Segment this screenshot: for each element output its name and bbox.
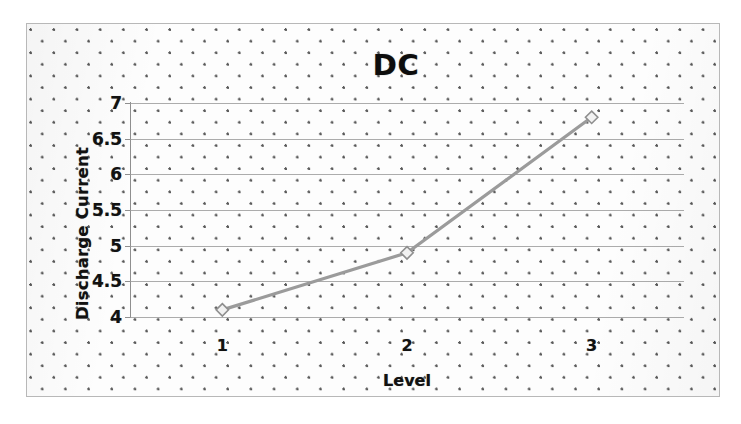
data-point-markers — [216, 111, 598, 316]
x-tick-label: 3 — [586, 336, 597, 355]
y-tick-label: 5 — [110, 235, 122, 255]
figure-canvas: DC Discharge Current Level 76.565.554.54… — [0, 0, 741, 424]
gridline — [130, 317, 684, 318]
y-axis-title: Discharge Current — [73, 119, 92, 349]
data-point-marker — [216, 304, 228, 316]
y-tick-label: 4.5 — [92, 271, 122, 291]
y-tick-label: 7 — [110, 93, 122, 113]
x-tick-label: 1 — [217, 336, 228, 355]
plot-area: 76.565.554.54 123 — [130, 103, 684, 317]
y-tick-label: 4 — [110, 307, 122, 327]
y-tick-label: 5.5 — [92, 200, 122, 220]
chart-title: DC — [27, 48, 720, 82]
data-series-svg — [130, 103, 684, 317]
series-line-discharge-current — [222, 117, 591, 310]
x-tick-label: 2 — [401, 336, 412, 355]
x-axis-title: Level — [130, 371, 684, 390]
y-tick-mark — [125, 317, 130, 318]
y-tick-label: 6 — [110, 164, 122, 184]
y-tick-label: 6.5 — [92, 128, 122, 148]
chart-frame: DC Discharge Current Level 76.565.554.54… — [26, 23, 720, 397]
